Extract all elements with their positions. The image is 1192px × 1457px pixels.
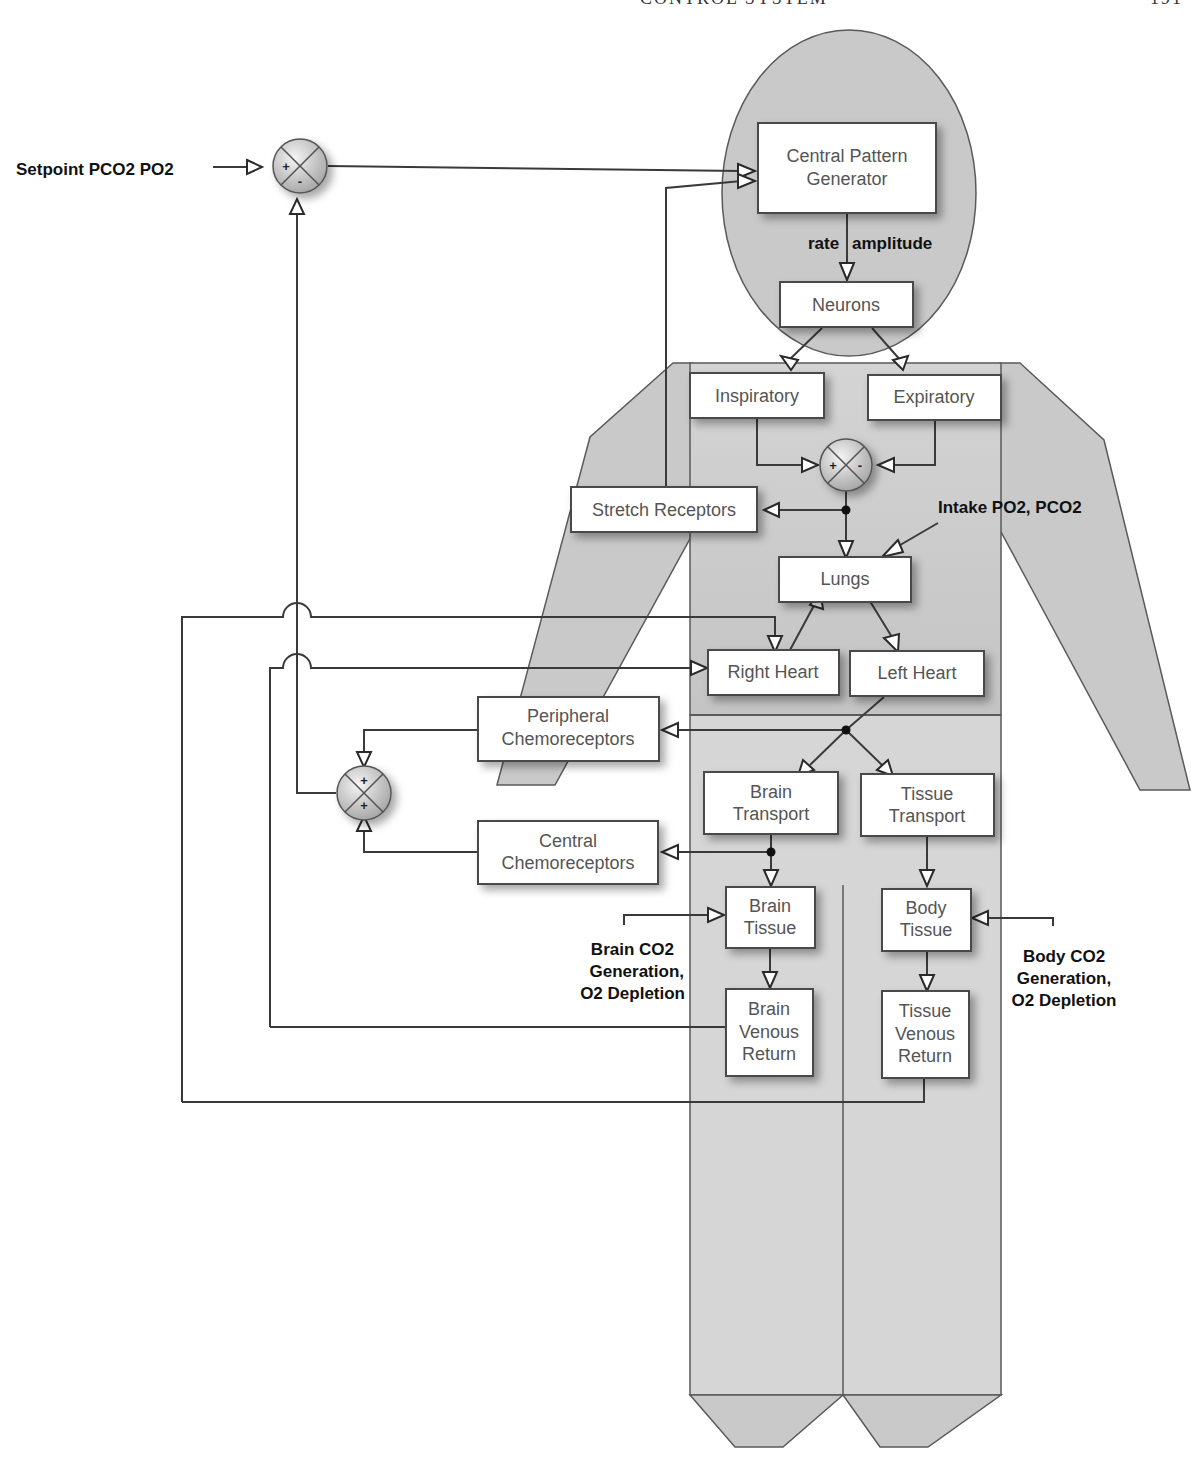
amplitude-label: amplitude — [852, 234, 932, 253]
svg-text:Inspiratory: Inspiratory — [715, 386, 799, 406]
block-lungs: Lungs — [779, 557, 911, 602]
svg-text:-: - — [858, 458, 862, 473]
svg-text:Tissue: Tissue — [900, 920, 952, 940]
header-title: CONTROL SYSTEM — [640, 0, 828, 8]
junction-dot — [842, 726, 851, 735]
svg-text:Brain CO2: Brain CO2 — [591, 940, 674, 959]
header-page-number: 191 — [1150, 0, 1183, 8]
svg-text:Generation,: Generation, — [590, 962, 684, 981]
block-brain-transport: Brain Transport — [704, 772, 838, 834]
svg-text:-: - — [298, 174, 302, 189]
svg-text:Brain: Brain — [748, 999, 790, 1019]
svg-text:Tissue: Tissue — [899, 1001, 951, 1021]
chemoreceptor-summing-junction: + + — [337, 766, 391, 820]
svg-text:Left Heart: Left Heart — [877, 663, 956, 683]
rate-label: rate — [808, 234, 839, 253]
svg-text:Generation,: Generation, — [1017, 969, 1111, 988]
svg-text:Venous: Venous — [739, 1022, 799, 1042]
svg-text:Body CO2: Body CO2 — [1023, 947, 1105, 966]
setpoint-label: Setpoint PCO2 PO2 — [16, 160, 174, 179]
body-generation-label: Body CO2 Generation, O2 Depletion — [1012, 947, 1117, 1010]
block-inspiratory: Inspiratory — [690, 373, 824, 418]
block-body-tissue: Body Tissue — [882, 889, 971, 951]
svg-text:Right Heart: Right Heart — [727, 662, 818, 682]
respiratory-control-diagram: CONTROL SYSTEM 191 — [0, 0, 1192, 1457]
brain-generation-label: Brain CO2 Generation, O2 Depletion — [580, 940, 685, 1003]
svg-text:Chemoreceptors: Chemoreceptors — [501, 729, 634, 749]
block-right-heart: Right Heart — [708, 650, 839, 695]
right-arm — [1000, 363, 1190, 790]
svg-text:O2 Depletion: O2 Depletion — [1012, 991, 1117, 1010]
svg-text:Lungs: Lungs — [820, 569, 869, 589]
svg-text:Chemoreceptors: Chemoreceptors — [501, 853, 634, 873]
junction-dot — [842, 506, 851, 515]
svg-text:Brain: Brain — [750, 782, 792, 802]
respiratory-summing-junction: + - — [820, 439, 872, 491]
block-brain-venous-return: Brain Venous Return — [726, 989, 813, 1076]
svg-text:Expiratory: Expiratory — [893, 387, 974, 407]
svg-text:Tissue: Tissue — [744, 918, 796, 938]
svg-text:Body: Body — [905, 898, 946, 918]
block-expiratory: Expiratory — [868, 375, 1001, 420]
block-central-pattern-generator: Central Pattern Generator — [758, 123, 936, 213]
block-tissue-transport: Tissue Transport — [861, 774, 994, 836]
setpoint-summing-junction: + - — [273, 139, 327, 193]
block-central-chemoreceptors: Central Chemoreceptors — [478, 821, 658, 884]
left-foot — [690, 1395, 843, 1447]
svg-text:Venous: Venous — [895, 1024, 955, 1044]
block-brain-tissue: Brain Tissue — [726, 887, 815, 948]
svg-text:+: + — [360, 773, 368, 788]
intake-label: Intake PO2, PCO2 — [938, 498, 1082, 517]
svg-text:O2 Depletion: O2 Depletion — [580, 984, 685, 1003]
svg-text:+: + — [282, 159, 290, 174]
svg-text:+: + — [360, 798, 368, 813]
svg-text:+: + — [829, 458, 837, 473]
svg-text:Peripheral: Peripheral — [527, 706, 609, 726]
block-tissue-venous-return: Tissue Venous Return — [882, 991, 969, 1078]
svg-text:Central Pattern: Central Pattern — [786, 146, 907, 166]
svg-text:Neurons: Neurons — [812, 295, 880, 315]
svg-text:Transport: Transport — [889, 806, 965, 826]
right-foot — [843, 1395, 1001, 1447]
block-peripheral-chemoreceptors: Peripheral Chemoreceptors — [478, 697, 659, 761]
svg-text:Tissue: Tissue — [901, 784, 953, 804]
svg-text:Stretch Receptors: Stretch Receptors — [592, 500, 736, 520]
block-stretch-receptors: Stretch Receptors — [571, 487, 757, 532]
svg-text:Return: Return — [742, 1044, 796, 1064]
svg-text:Generator: Generator — [806, 169, 887, 189]
page-header: CONTROL SYSTEM 191 — [640, 0, 1183, 8]
block-left-heart: Left Heart — [850, 651, 984, 696]
block-neurons: Neurons — [780, 282, 913, 327]
svg-text:Central: Central — [539, 831, 597, 851]
svg-text:Return: Return — [898, 1046, 952, 1066]
svg-text:Brain: Brain — [749, 896, 791, 916]
junction-dot — [767, 848, 776, 857]
svg-text:Transport: Transport — [733, 804, 809, 824]
